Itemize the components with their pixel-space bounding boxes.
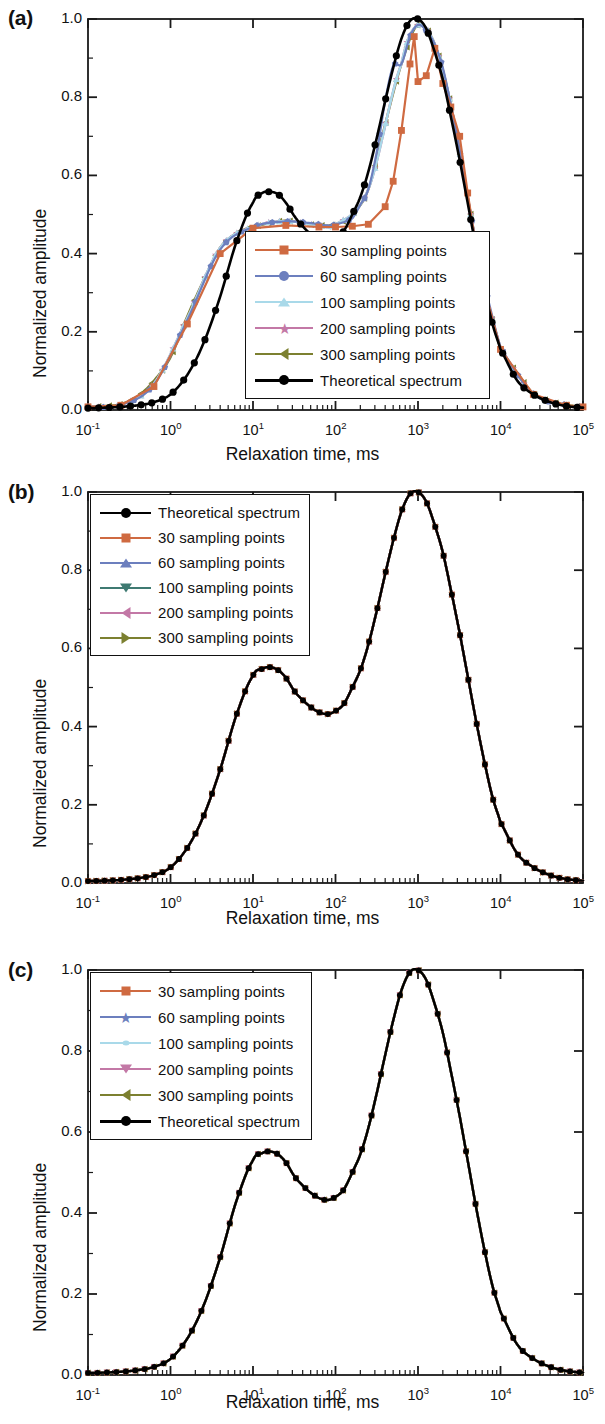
x-tick-label: 105 — [573, 420, 594, 438]
data-marker — [127, 403, 134, 410]
x-tick-label: 101 — [243, 1385, 264, 1403]
data-marker — [444, 1050, 450, 1056]
legend-marker-star-icon: ★ — [253, 320, 315, 336]
data-marker — [390, 178, 397, 185]
data-marker — [143, 874, 149, 880]
data-marker — [259, 666, 265, 672]
data-marker — [567, 1369, 573, 1375]
data-marker — [212, 307, 219, 314]
data-marker — [456, 133, 463, 140]
data-marker — [577, 1369, 583, 1375]
data-marker — [113, 1369, 119, 1375]
data-marker — [539, 1361, 545, 1367]
y-tick-label: 0.4 — [40, 717, 82, 734]
data-marker — [565, 876, 571, 882]
data-marker — [349, 223, 356, 230]
legend-item: Theoretical spectrum — [253, 367, 482, 393]
legend-marker-triangle-down-icon — [98, 1061, 153, 1077]
legend-label: Theoretical spectrum — [153, 504, 300, 521]
data-marker — [317, 709, 323, 715]
data-marker — [312, 1193, 318, 1199]
data-marker — [189, 1328, 195, 1334]
x-tick-label: 100 — [160, 420, 181, 438]
data-marker — [393, 52, 400, 59]
data-marker — [300, 697, 306, 703]
y-tick-label: 1.0 — [40, 482, 82, 499]
data-marker — [529, 1355, 535, 1361]
y-tick-label: 0.2 — [40, 1284, 82, 1301]
y-tick-label: 0.6 — [40, 638, 82, 655]
data-marker — [123, 1369, 129, 1375]
data-marker — [435, 1011, 441, 1017]
data-marker — [180, 376, 187, 383]
legend-item: 60 sampling points — [253, 263, 482, 289]
data-marker — [244, 209, 251, 216]
data-marker — [191, 359, 198, 366]
legend-marker-triangle-right-icon — [98, 630, 153, 646]
panel-a-x-axis-label: Relaxation time, ms — [0, 444, 605, 465]
legend-label: 30 sampling points — [153, 983, 285, 1000]
legend-marker-triangle-down-icon — [98, 580, 153, 596]
data-marker — [242, 688, 248, 694]
data-marker — [383, 569, 389, 575]
data-marker — [531, 392, 538, 399]
y-tick-label: 0.6 — [40, 165, 82, 182]
data-marker — [151, 383, 158, 390]
legend-label: 300 sampling points — [153, 629, 293, 646]
data-marker — [201, 336, 208, 343]
data-marker — [102, 878, 108, 884]
data-marker — [255, 1151, 261, 1157]
x-tick-label: 10-1 — [76, 1385, 101, 1403]
data-marker — [148, 399, 155, 406]
legend-item: 100 sampling points — [98, 1030, 304, 1056]
data-marker — [350, 1169, 356, 1175]
legend-marker-triangle-up-icon — [253, 294, 315, 310]
x-tick-label: 104 — [490, 420, 511, 438]
legend-item: 60 sampling points — [98, 550, 302, 575]
data-marker — [425, 982, 431, 988]
data-marker — [292, 689, 298, 695]
data-marker — [293, 1175, 299, 1181]
data-marker — [573, 877, 579, 883]
y-tick-label: 0.2 — [40, 322, 82, 339]
data-marker — [366, 639, 372, 645]
data-marker — [118, 877, 124, 883]
data-marker — [85, 1370, 91, 1376]
data-marker — [201, 813, 207, 819]
x-tick-label: 102 — [325, 420, 346, 438]
data-marker — [540, 869, 546, 875]
data-marker — [321, 1197, 327, 1203]
data-marker — [463, 1148, 469, 1154]
legend-item: 300 sampling points — [98, 1082, 304, 1108]
data-marker — [563, 402, 570, 409]
legend-marker-circle-icon — [253, 372, 315, 388]
panel-b-legend: Theoretical spectrum30 sampling points60… — [90, 494, 310, 656]
data-marker — [276, 192, 283, 199]
legend-label: 200 sampling points — [153, 1061, 293, 1078]
legend-label: 60 sampling points — [153, 554, 285, 571]
data-marker — [227, 1220, 233, 1226]
legend-marker-square-icon — [98, 530, 153, 546]
data-marker — [332, 224, 339, 231]
data-marker — [501, 1316, 507, 1322]
legend-label: 30 sampling points — [153, 529, 285, 546]
legend-marker-triangle-up-icon — [98, 555, 153, 571]
data-marker — [161, 1360, 167, 1366]
x-tick-label: 100 — [160, 1385, 181, 1403]
legend-item: ★60 sampling points — [98, 1004, 304, 1030]
y-tick-label: 1.0 — [40, 960, 82, 977]
data-marker — [408, 490, 414, 496]
data-marker — [378, 1071, 384, 1077]
legend-item: 30 sampling points — [253, 237, 482, 263]
legend-marker-star-icon: ★ — [98, 1009, 153, 1025]
data-marker — [151, 872, 157, 878]
data-marker — [333, 708, 339, 714]
data-marker — [558, 1367, 564, 1373]
legend-marker-square-icon — [98, 983, 153, 999]
legend-marker-dot-small-icon — [98, 1035, 153, 1051]
data-marker — [416, 490, 422, 496]
data-marker — [467, 216, 474, 223]
data-marker — [457, 159, 464, 166]
y-tick-label: 0.0 — [40, 873, 82, 890]
data-marker — [341, 700, 347, 706]
